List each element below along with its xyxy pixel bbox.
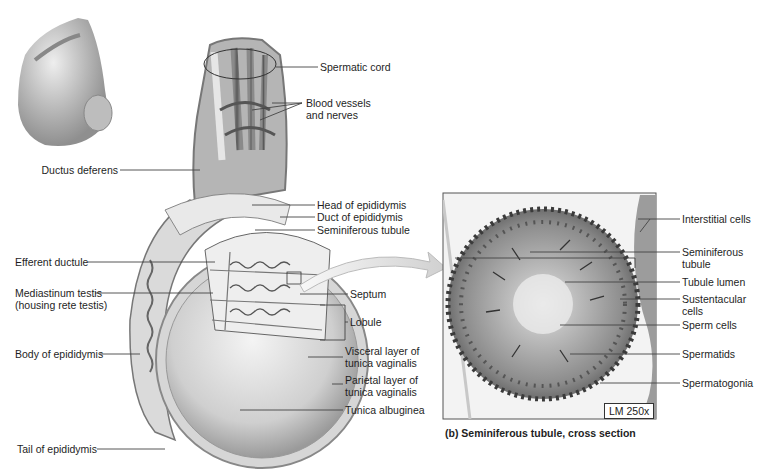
label-seminiferous-tubule: Seminiferous tubule bbox=[317, 224, 410, 236]
label-efferent-ductule: Efferent ductule bbox=[15, 256, 88, 268]
label-spermatic-cord: Spermatic cord bbox=[320, 61, 391, 73]
label-blood-vessels: Blood vessels bbox=[306, 97, 371, 109]
label-tunica-albuginea: Tunica albuginea bbox=[345, 404, 425, 416]
label-sustentacular-cells-sub: cells bbox=[682, 305, 703, 317]
spermatic-cord-illustration bbox=[193, 38, 286, 205]
scale-bar-label: LM 250x bbox=[604, 403, 654, 419]
label-head-of-epididymis: Head of epididymis bbox=[317, 199, 406, 211]
label-interstitial-cells: Interstitial cells bbox=[682, 213, 751, 225]
micrograph-panel bbox=[443, 193, 656, 419]
label-sustentacular-cells: Sustentacular bbox=[682, 293, 746, 305]
label-septum: Septum bbox=[350, 288, 386, 300]
label-visceral-layer-sub: tunica vaginalis bbox=[345, 357, 417, 369]
label-spermatids: Spermatids bbox=[682, 348, 735, 360]
label-mediastinum-testis: Mediastinum testis bbox=[15, 287, 102, 299]
label-spermatogonia: Spermatogonia bbox=[682, 377, 753, 389]
label-seminiferous-tubule-micro-sub: tubule bbox=[682, 258, 711, 270]
panel-b-caption: (b) Seminiferous tubule, cross section bbox=[445, 427, 636, 439]
label-duct-of-epididymis: Duct of epididymis bbox=[317, 211, 403, 223]
label-seminiferous-tubule-micro: Seminiferous bbox=[682, 246, 743, 258]
label-mediastinum-testis-sub: (housing rete testis) bbox=[15, 299, 107, 311]
label-body-of-epididymis: Body of epididymis bbox=[15, 348, 103, 360]
label-lobule: Lobule bbox=[350, 316, 382, 328]
label-tubule-lumen: Tubule lumen bbox=[682, 276, 745, 288]
orientation-inset bbox=[18, 18, 112, 146]
label-blood-vessels-sub: and nerves bbox=[306, 109, 358, 121]
label-ductus-deferens: Ductus deferens bbox=[20, 164, 118, 176]
label-visceral-layer: Visceral layer of bbox=[345, 345, 420, 357]
label-parietal-layer-sub: tunica vaginalis bbox=[345, 386, 417, 398]
label-parietal-layer: Parietal layer of bbox=[345, 374, 418, 386]
label-sperm-cells: Sperm cells bbox=[682, 319, 737, 331]
label-tail-of-epididymis: Tail of epididymis bbox=[17, 443, 97, 455]
